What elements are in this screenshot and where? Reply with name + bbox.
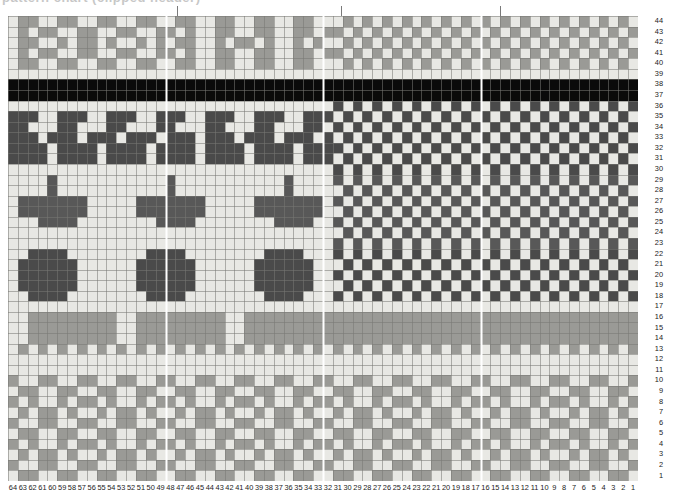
row-number-label: 37 [655, 90, 663, 101]
row-number-label: 14 [655, 333, 663, 344]
pattern-grid[interactable] [8, 16, 638, 481]
tick-mark-1 [177, 6, 178, 16]
row-number-label: 30 [655, 164, 663, 175]
row-number-label: 28 [655, 185, 663, 196]
row-number-label: 10 [655, 375, 663, 386]
tick-mark-2 [341, 6, 342, 16]
row-number-label: 39 [655, 69, 663, 80]
row-number-label: 9 [659, 386, 663, 397]
row-number-label: 15 [655, 323, 663, 334]
row-number-label: 8 [659, 397, 663, 408]
row-number-label: 44 [655, 16, 663, 27]
row-number-label: 43 [655, 27, 663, 38]
row-number-label: 33 [655, 132, 663, 143]
row-number-label: 38 [655, 79, 663, 90]
row-number-label: 6 [659, 418, 663, 429]
row-number-label: 42 [655, 37, 663, 48]
row-number-label: 11 [655, 365, 663, 376]
row-number-label: 18 [655, 291, 663, 302]
pattern-grid-canvas[interactable] [8, 16, 638, 481]
row-number-label: 13 [655, 344, 663, 355]
row-number-label: 31 [655, 153, 663, 164]
row-number-label: 35 [655, 111, 663, 122]
row-number-label: 21 [655, 259, 663, 270]
row-number-label: 25 [655, 217, 663, 228]
row-number-label: 4 [659, 439, 663, 450]
row-number-label: 40 [655, 58, 663, 69]
title-text: pattern chart (clipped header) [2, 0, 200, 5]
row-number-label: 24 [655, 227, 663, 238]
row-number-label: 5 [659, 428, 663, 439]
row-number-label: 2 [659, 460, 663, 471]
row-number-label: 26 [655, 206, 663, 217]
row-number-label: 19 [655, 280, 663, 291]
row-number-label: 36 [655, 101, 663, 112]
row-number-label: 3 [659, 449, 663, 460]
row-number-label: 7 [659, 407, 663, 418]
row-number-label: 32 [655, 143, 663, 154]
pattern-chart-page: pattern chart (clipped header) 444342414… [0, 0, 684, 500]
row-number-label: 1 [659, 471, 663, 482]
row-number-label: 17 [655, 301, 663, 312]
row-number-label: 20 [655, 270, 663, 281]
clipped-title-text: pattern chart (clipped header) [0, 0, 684, 11]
row-number-label: 12 [655, 354, 663, 365]
row-number-label: 22 [655, 249, 663, 260]
row-number-label: 34 [655, 122, 663, 133]
column-number-label: 1 [623, 483, 643, 492]
row-number-label: 16 [655, 312, 663, 323]
column-number-axis: 6463626160595857565554535251504948474645… [8, 483, 638, 497]
row-number-axis: 4443424140393837363534333231302928272625… [641, 16, 665, 481]
row-number-label: 23 [655, 238, 663, 249]
tick-mark-3 [500, 6, 501, 16]
row-number-label: 29 [655, 175, 663, 186]
row-number-label: 27 [655, 196, 663, 207]
row-number-label: 41 [655, 48, 663, 59]
